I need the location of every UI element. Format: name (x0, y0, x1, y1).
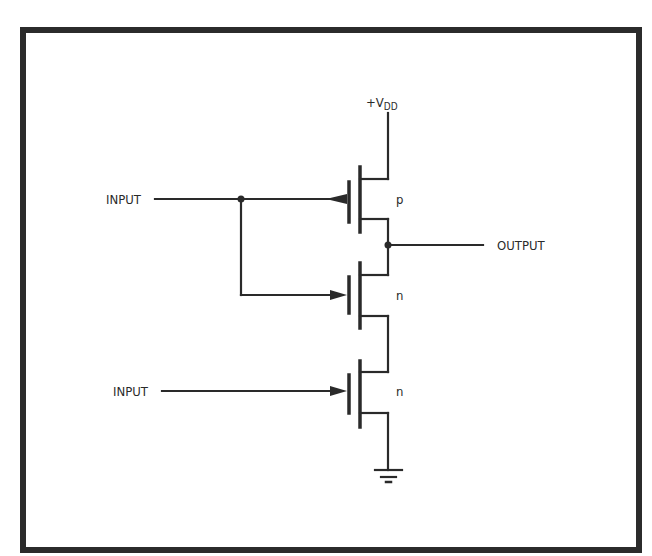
input-label-2: INPUT (113, 384, 149, 399)
n-transistor-2 (349, 361, 388, 427)
n1-gate-arrow-icon (330, 290, 347, 300)
p-gate-arrow-icon (326, 194, 347, 204)
p-type-label: p (396, 192, 403, 207)
n-type-label-1: n (396, 288, 403, 303)
input-junction-dot (238, 196, 245, 203)
n2-gate-arrow-icon (330, 386, 347, 396)
n-type-label-2: n (396, 384, 403, 399)
vdd-label: +VDD (366, 95, 398, 112)
circuit-diagram: +VDD INPUT INPUT OUTPUT p n n (0, 0, 652, 556)
p-transistor (349, 167, 388, 232)
ground-icon (375, 470, 402, 482)
output-junction-dot (385, 242, 392, 249)
output-label: OUTPUT (497, 238, 546, 253)
n-transistor-1 (349, 263, 388, 328)
input-label-1: INPUT (106, 192, 142, 207)
